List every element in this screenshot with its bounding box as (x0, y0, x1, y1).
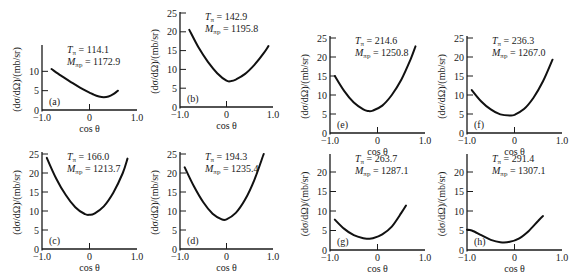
panel-label: (f) (474, 119, 484, 131)
y-axis-label: (dσ/dΩ)/(mb/sr) (299, 54, 311, 118)
panel-label: (d) (187, 235, 199, 247)
m-pi-p-annotation: Mπp = 1213.7 (66, 163, 121, 176)
y-tick-label: 20 (454, 167, 464, 178)
cross-section-curve (52, 69, 119, 97)
x-tick-label: −1.0 (321, 252, 339, 263)
y-axis-label: (dσ/dΩ)/(mb/sr) (149, 170, 161, 234)
y-tick-label: 15 (454, 71, 464, 82)
panel-g: 05101520−1.001.0cos θ(dσ/dΩ)/(mb/sr)(g)T… (299, 153, 431, 274)
y-tick-label: 15 (317, 186, 327, 197)
y-axis-label: (dσ/dΩ)/(mb/sr) (11, 47, 23, 111)
x-tick-label: −1.0 (321, 135, 339, 146)
y-tick-label: 5 (172, 83, 177, 94)
x-tick-label: 1.0 (419, 135, 432, 146)
panel-f: 0510152025−1.001.0cos θ(dσ/dΩ)/(mb/sr)(f… (436, 33, 568, 158)
x-tick-label: −1.0 (458, 135, 476, 146)
y-tick-label: 5 (34, 225, 39, 236)
y-tick-label: 25 (29, 149, 39, 160)
panel-b: 0510152025−1.001.0cos θ(dσ/dΩ)/(mb/sr)(b… (149, 8, 279, 132)
x-tick-label: 0 (87, 112, 92, 123)
y-tick-label: 15 (167, 45, 177, 56)
y-tick-label: 10 (317, 206, 327, 217)
y-tick-label: 10 (167, 206, 177, 217)
panel-c: 0510152025−1.001.0cos θ(dσ/dΩ)/(mb/sr)(c… (11, 149, 143, 274)
y-tick-label: 25 (317, 33, 327, 44)
x-tick-label: 1.0 (267, 251, 280, 262)
y-tick-label: 10 (454, 90, 464, 101)
y-tick-label: 5 (322, 109, 327, 120)
panel-h: 05101520−1.001.0cos θ(dσ/dΩ)/(mb/sr)(h)T… (436, 153, 568, 274)
y-tick-label: 20 (167, 168, 177, 179)
panel-label: (c) (49, 235, 60, 247)
y-axis-label: (dσ/dΩ)/(mb/sr) (299, 172, 311, 236)
panel-e: 0510152025−1.001.0cos θ(dσ/dΩ)/(mb/sr)(e… (299, 33, 431, 158)
x-tick-label: −1.0 (171, 251, 189, 262)
y-tick-label: 20 (454, 52, 464, 63)
panel-d: 0510152025−1.001.0cos θ(dσ/dΩ)/(mb/sr)(d… (149, 149, 279, 274)
m-pi-p-annotation: Mπp = 1172.9 (66, 56, 120, 69)
y-tick-label: 25 (454, 33, 464, 44)
y-tick-label: 20 (29, 168, 39, 179)
m-pi-p-annotation: Mπp = 1235.4 (204, 163, 259, 176)
x-tick-label: 0 (375, 252, 380, 263)
panel-label: (b) (187, 93, 199, 105)
x-tick-label: −1.0 (171, 109, 189, 120)
x-tick-label: 1.0 (267, 109, 280, 120)
x-tick-label: 0 (87, 251, 92, 262)
panel-label: (e) (337, 119, 348, 131)
y-tick-label: 10 (29, 66, 39, 77)
x-axis-label: cos θ (216, 262, 237, 273)
x-axis-label: cos θ (367, 263, 388, 274)
y-tick-label: 15 (29, 187, 39, 198)
x-axis-label: cos θ (504, 263, 525, 274)
y-tick-label: 15 (317, 71, 327, 82)
x-axis-label: cos θ (79, 262, 100, 273)
x-tick-label: 0 (512, 252, 517, 263)
x-tick-label: 1.0 (131, 251, 144, 262)
m-pi-p-annotation: Mπp = 1307.1 (491, 165, 546, 178)
x-tick-label: 0 (224, 109, 229, 120)
y-tick-label: 10 (317, 90, 327, 101)
y-tick-label: 20 (317, 52, 327, 63)
y-tick-label: 25 (167, 149, 177, 160)
y-tick-label: 15 (454, 186, 464, 197)
y-tick-label: 5 (459, 109, 464, 120)
x-axis-label: cos θ (216, 120, 237, 131)
x-tick-label: 0 (512, 135, 517, 146)
cross-section-curve (189, 30, 268, 82)
x-tick-label: 0 (375, 135, 380, 146)
x-tick-label: 1.0 (556, 135, 569, 146)
y-tick-label: 15 (167, 187, 177, 198)
y-tick-label: 5 (172, 225, 177, 236)
panel-label: (a) (49, 96, 60, 108)
panel-a: 0510−1.001.0cos θ(dσ/dΩ)/(mb/sr)(a)Tπ = … (11, 44, 143, 134)
y-tick-label: 5 (322, 225, 327, 236)
y-axis-label: (dσ/dΩ)/(mb/sr) (11, 170, 23, 234)
m-pi-p-annotation: Mπp = 1195.8 (204, 23, 258, 36)
y-tick-label: 10 (29, 206, 39, 217)
x-tick-label: −1.0 (33, 112, 51, 123)
x-tick-label: −1.0 (458, 252, 476, 263)
panel-label: (h) (474, 236, 486, 248)
m-pi-p-annotation: Mπp = 1250.8 (354, 47, 409, 60)
cross-section-curve (335, 206, 406, 239)
m-pi-p-annotation: Mπp = 1267.0 (491, 47, 546, 60)
y-tick-label: 10 (167, 64, 177, 75)
panel-label: (g) (337, 236, 349, 248)
x-tick-label: −1.0 (33, 251, 51, 262)
y-tick-label: 10 (454, 206, 464, 217)
x-tick-label: 0 (224, 251, 229, 262)
x-tick-label: 1.0 (419, 252, 432, 263)
y-tick-label: 5 (459, 225, 464, 236)
x-tick-label: 1.0 (556, 252, 569, 263)
m-pi-p-annotation: Mπp = 1287.1 (354, 165, 409, 178)
y-axis-label: (dσ/dΩ)/(mb/sr) (149, 29, 161, 93)
x-tick-label: 1.0 (131, 112, 144, 123)
y-axis-label: (dσ/dΩ)/(mb/sr) (436, 54, 448, 118)
y-tick-label: 20 (167, 26, 177, 37)
cross-section-curve (472, 60, 553, 116)
x-axis-label: cos θ (79, 123, 100, 134)
figure-canvas: 0510−1.001.0cos θ(dσ/dΩ)/(mb/sr)(a)Tπ = … (0, 0, 574, 280)
y-tick-label: 25 (167, 8, 177, 19)
y-tick-label: 5 (34, 85, 39, 96)
